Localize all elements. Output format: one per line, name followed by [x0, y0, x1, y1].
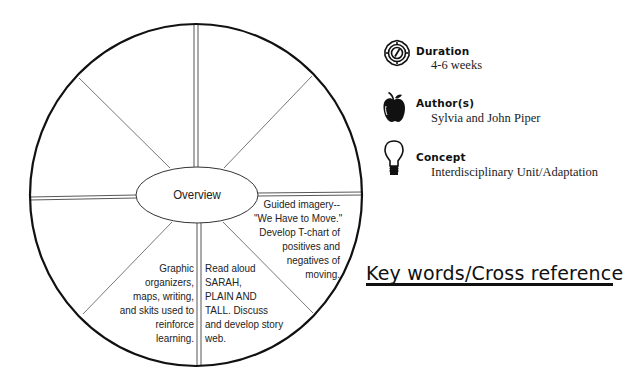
- segment-line: positives and: [254, 239, 340, 253]
- concept-title: Concept: [416, 151, 466, 163]
- segment-line: Graphic: [106, 261, 194, 275]
- overview-label: Overview: [164, 187, 229, 202]
- segment-line: learning.: [106, 331, 194, 345]
- duration-value: 4-6 weeks: [431, 58, 482, 73]
- duration-title: Duration: [416, 45, 469, 57]
- lightbulb-icon: [383, 139, 405, 177]
- segment-line: SARAH,: [205, 275, 300, 289]
- authors-value: Sylvia and John Piper: [431, 111, 540, 126]
- keywords-underline: [366, 283, 613, 286]
- concept-value: Interdisciplinary Unit/Adaptation: [431, 165, 598, 180]
- segment-line: Read aloud: [205, 261, 300, 275]
- segment-line: "We Have to Move.": [254, 211, 340, 225]
- segment-line: web.: [205, 331, 300, 345]
- segment-line: reinforce: [106, 317, 194, 331]
- segment-line: TALL. Discuss: [205, 303, 300, 317]
- compass-clock-icon: [383, 39, 411, 67]
- segment-graphic-organizers: Graphic organizers, maps, writing, and s…: [106, 261, 194, 345]
- segment-line: organizers,: [106, 275, 194, 289]
- segment-line: Develop T-chart of: [254, 225, 340, 239]
- segment-line: PLAIN AND: [205, 289, 300, 303]
- apple-icon: [382, 91, 406, 125]
- segment-line: Guided imagery--: [254, 197, 340, 211]
- keywords-heading: Key words/Cross reference: [366, 262, 623, 284]
- segment-line: maps, writing,: [106, 289, 194, 303]
- spoke-ne: [224, 76, 312, 168]
- authors-title: Author(s): [416, 97, 474, 109]
- segment-line: and develop story: [205, 317, 300, 331]
- segment-read-aloud: Read aloud SARAH, PLAIN AND TALL. Discus…: [205, 261, 300, 345]
- segment-line: and skits used to: [106, 303, 194, 317]
- spoke-nw: [79, 78, 170, 168]
